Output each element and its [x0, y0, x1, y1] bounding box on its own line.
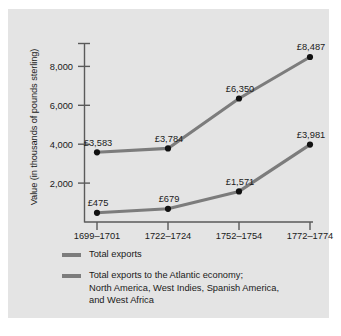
x-tick-label-1: 1722–1724: [132, 231, 204, 241]
series-total-exports-point-3: [307, 54, 313, 60]
series-total-exports-point-2: [236, 95, 242, 101]
point-label-total-exports-0: £3,583: [75, 138, 121, 148]
legend-label-atlantic-economy-line-3: and West Africa: [89, 294, 279, 306]
series-atlantic-economy-line: [97, 145, 310, 213]
legend-label-atlantic-economy-line-2: North America, West Indies, Spanish Amer…: [89, 282, 279, 294]
x-tick-label-2: 1752–1754: [203, 231, 275, 241]
legend-item-total-exports: Total exports: [62, 248, 324, 260]
series-total-exports-point-0: [94, 149, 100, 155]
series-total-exports-line: [97, 57, 310, 152]
point-label-atlantic-economy-1: £679: [146, 194, 192, 204]
legend-label-atlantic-economy: Total exports to the Atlantic economy; N…: [89, 269, 279, 306]
x-tick-label-3: 1772–1774: [274, 231, 341, 241]
point-label-total-exports-1: £3,784: [146, 134, 192, 144]
legend-swatch-atlantic-economy: [62, 274, 81, 278]
y-tick-label-2000: 2,000: [31, 179, 73, 189]
point-label-atlantic-economy-3: £3,981: [288, 130, 334, 140]
series-atlantic-economy-point-2: [236, 188, 242, 194]
series-atlantic-economy-point-3: [307, 142, 313, 148]
series-atlantic-economy-point-0: [94, 210, 100, 216]
legend-swatch-total-exports: [62, 253, 81, 257]
x-tick-label-0: 1699–1701: [61, 231, 133, 241]
point-label-atlantic-economy-0: £475: [75, 198, 121, 208]
point-label-total-exports-2: £6,350: [217, 84, 263, 94]
series-total-exports-point-1: [165, 145, 171, 151]
chart-figure: Value (in thousands of pounds sterling) …: [8, 9, 329, 318]
legend-label-atlantic-economy-line-1: Total exports to the Atlantic economy;: [89, 269, 279, 281]
point-label-atlantic-economy-2: £1,571: [217, 177, 263, 187]
point-label-total-exports-3: £8,487: [288, 42, 334, 52]
legend-label-total-exports: Total exports: [89, 248, 142, 260]
y-tick-label-6000: 6,000: [31, 101, 73, 111]
chart-plot-area: Value (in thousands of pounds sterling) …: [8, 9, 329, 318]
chart-legend: Total exports Total exports to the Atlan…: [62, 248, 324, 316]
series-atlantic-economy-point-1: [165, 206, 171, 212]
y-tick-label-8000: 8,000: [31, 62, 73, 72]
legend-item-atlantic-economy: Total exports to the Atlantic economy; N…: [62, 269, 324, 306]
y-tick-label-4000: 4,000: [31, 140, 73, 150]
